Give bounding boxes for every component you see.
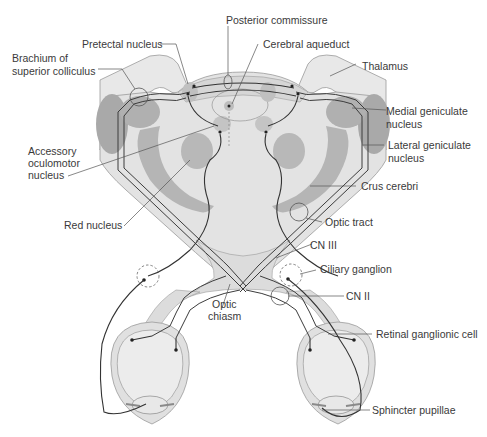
label-accessory-line2: oculomotor (28, 157, 80, 169)
retinal-ganglion-cell-right-1 (352, 338, 356, 342)
label-cn-ii: CN II (346, 290, 370, 302)
label-optic-chiasm-line1: Optic (212, 298, 237, 310)
medial-geniculate-left (96, 94, 128, 154)
retinal-ganglion-cell-left-1 (130, 338, 134, 342)
lateral-geniculate-left (120, 96, 160, 128)
label-cerebral-aqueduct: Cerebral aqueduct (263, 38, 349, 50)
label-thalamus: Thalamus (362, 60, 408, 72)
retinal-ganglion-cell-left-2 (174, 348, 178, 352)
label-cn-iii: CN III (310, 239, 337, 251)
label-optic-tract: Optic tract (325, 216, 373, 228)
label-retinal-ganglionic-cell: Retinal ganglionic cell (376, 328, 478, 340)
accessory-oculomotor-left (213, 116, 231, 132)
label-lateral-geniculate-line2: nucleus (388, 152, 424, 164)
label-brachium-line1: Brachium of (12, 52, 68, 64)
label-red-nucleus: Red nucleus (64, 219, 122, 231)
label-posterior-commissure: Posterior commissure (226, 14, 328, 26)
accessory-oculomotor-right (255, 116, 273, 132)
eye-right (297, 322, 375, 424)
label-lateral-geniculate-line1: Lateral geniculate (388, 139, 471, 151)
pupillary-reflex-diagram: Posterior commissure Pretectal nucleus C… (0, 0, 487, 437)
eye-left (111, 322, 189, 424)
label-medial-geniculate-line2: nucleus (386, 118, 422, 130)
label-accessory-line3: nucleus (28, 169, 64, 181)
label-optic-chiasm-line2: chiasm (208, 310, 242, 322)
label-accessory-line1: Accessory (28, 145, 77, 157)
retinal-ganglion-cell-right-2 (308, 348, 312, 352)
label-pretectal-nucleus: Pretectal nucleus (82, 38, 163, 50)
diagram-canvas: Posterior commissure Pretectal nucleus C… (0, 0, 487, 437)
lateral-geniculate-right (326, 96, 366, 128)
label-sphincter-pupillae: Sphincter pupillae (372, 404, 456, 416)
label-medial-geniculate-line1: Medial geniculate (386, 105, 468, 117)
label-crus-cerebri: Crus cerebri (361, 180, 418, 192)
label-brachium-line2: superior colliculus (12, 65, 95, 77)
label-ciliary-ganglion: Ciliary ganglion (320, 263, 392, 275)
ciliary-ganglion-right (280, 264, 302, 286)
